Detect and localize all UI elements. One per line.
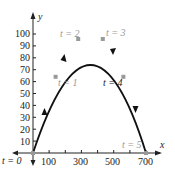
x-tick-100: 100 (41, 156, 56, 167)
marker-t1 (54, 75, 58, 79)
y-tick-60: 60 (20, 76, 30, 87)
y-tick-10: 10 (20, 136, 30, 147)
time-markers (31, 37, 148, 155)
y-axis-label: y (37, 11, 43, 22)
y-tick-80: 80 (20, 52, 30, 63)
label-t1: t = 1 (58, 77, 78, 88)
direction-arrow-down (110, 48, 116, 55)
y-tick-50: 50 (20, 88, 30, 99)
y-tick-100: 100 (15, 28, 30, 39)
label-t5: t = 5 (122, 139, 142, 150)
y-axis-arrow-down (31, 160, 36, 166)
label-t0: t = 0 (2, 155, 22, 166)
parametric-trajectory-chart: y x 100 300 500 700 10 20 30 40 50 60 70… (0, 0, 175, 179)
y-tick-40: 40 (20, 100, 30, 111)
label-t3: t = 3 (106, 27, 126, 38)
y-axis-arrow-up (31, 12, 36, 19)
direction-arrow-up (42, 108, 48, 115)
y-tick-20: 20 (20, 124, 30, 135)
y-tick-labels: 10 20 30 40 50 60 70 80 90 100 (15, 28, 30, 146)
y-tick-90: 90 (20, 40, 30, 51)
y-tick-70: 70 (20, 64, 30, 75)
y-tick-30: 30 (20, 112, 30, 123)
direction-arrow-up-2 (61, 54, 67, 62)
x-axis-arrow-right (155, 151, 162, 156)
label-t4: t = 4 (103, 77, 123, 88)
marker-t0 (31, 151, 35, 155)
marker-t3 (101, 37, 105, 41)
marker-t5 (144, 151, 148, 155)
x-tick-300: 300 (73, 156, 88, 167)
label-t2: t = 2 (60, 28, 80, 39)
x-tick-700: 700 (138, 156, 153, 167)
x-tick-500: 500 (105, 156, 120, 167)
x-axis-label: x (159, 139, 165, 150)
direction-arrow-down-2 (133, 106, 139, 113)
